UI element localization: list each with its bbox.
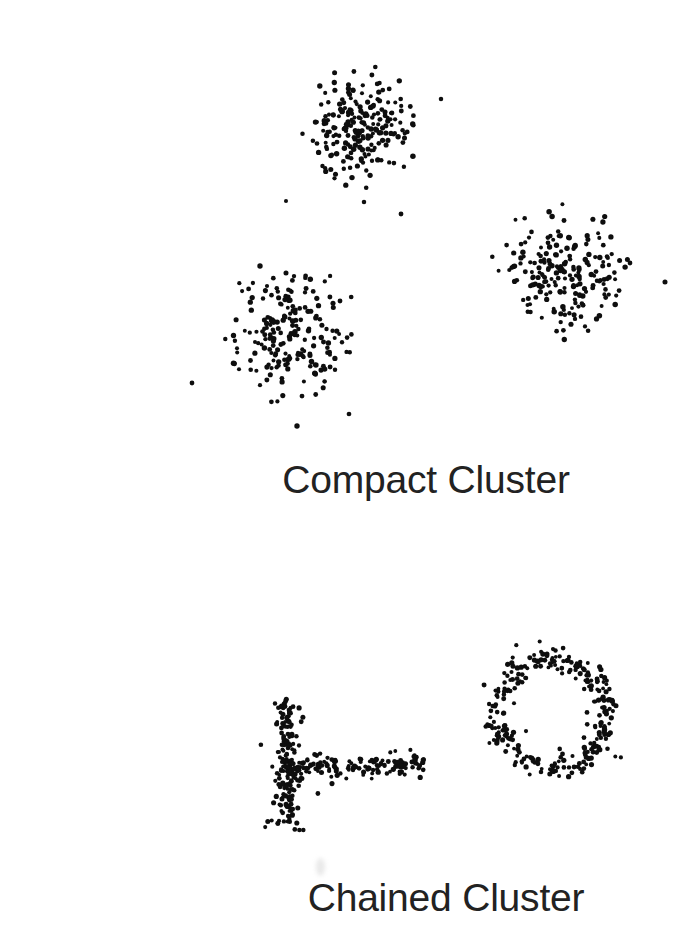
- cluster-figure-page: Compact Cluster Chained Cluster: [0, 0, 688, 927]
- right-blob: [490, 202, 632, 342]
- ring: [482, 639, 623, 779]
- compact-cluster-dots: [190, 65, 668, 429]
- compact-cluster-label: Compact Cluster: [282, 460, 569, 499]
- chained-cluster-label: Chained Cluster: [308, 878, 585, 917]
- scan-smudge-artifact: [316, 858, 325, 876]
- chained-cluster-dots: [259, 639, 623, 832]
- bottom-left-blob: [223, 270, 354, 404]
- top-blob: [300, 65, 416, 190]
